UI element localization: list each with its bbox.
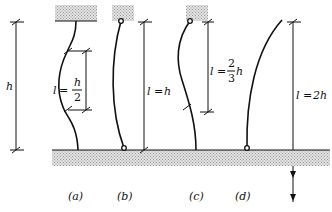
label-c-num: 2 <box>228 57 235 70</box>
label-b-rhs: h <box>164 85 171 98</box>
caption-c: (c) <box>189 190 204 203</box>
label-c-den: 3 <box>228 72 235 85</box>
label-b-eq: = <box>154 85 163 98</box>
top-support-a <box>55 5 97 21</box>
pin-b-top <box>119 19 124 24</box>
caption-b: (b) <box>117 190 133 203</box>
label-a-den: 2 <box>74 91 81 104</box>
column-d <box>247 20 282 148</box>
top-support-b <box>112 5 134 21</box>
label-d-eq: = <box>303 89 312 102</box>
label-a-l: l <box>53 84 57 97</box>
label-b-l: l <box>147 85 151 98</box>
column-b <box>113 21 124 148</box>
buckling-diagram: h l = h 2 l = h l = 2 3 h <box>0 0 332 212</box>
height-label: h <box>6 80 13 93</box>
dimension-d <box>287 19 301 202</box>
caption-d: (d) <box>235 190 251 203</box>
label-a-eq: = <box>59 84 68 97</box>
label-d-rhs: 2h <box>312 89 327 102</box>
label-c-suffix: h <box>236 65 243 78</box>
pin-b-bottom <box>122 146 127 151</box>
inflection-tick-a-bottom <box>64 106 72 112</box>
label-a-num: h <box>74 76 81 89</box>
label-c-l: l <box>210 65 214 78</box>
label-c-eq: = <box>217 65 226 78</box>
ground-support <box>52 150 330 166</box>
label-d-l: l <box>296 89 300 102</box>
pin-c-top <box>188 19 193 24</box>
caption-a: (a) <box>68 190 83 203</box>
pin-d-bottom <box>245 146 250 151</box>
column-c <box>178 21 196 150</box>
